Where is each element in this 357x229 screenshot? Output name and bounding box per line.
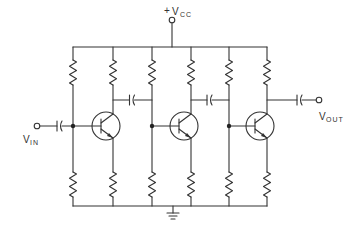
stage-3-collector-resistor bbox=[264, 60, 271, 85]
vcc-label: V bbox=[172, 6, 179, 17]
stage2-to-stage3-coupling-capacitor bbox=[207, 95, 212, 105]
stage-1-emitter-resistor bbox=[110, 172, 117, 197]
stage-2-bias-resistor-bottom bbox=[149, 172, 156, 197]
stage-1-bias-resistor-bottom bbox=[70, 172, 77, 197]
stage-3-base-junction-dot bbox=[227, 124, 231, 128]
input-coupling-capacitor bbox=[57, 121, 62, 131]
stage-1-base-junction-dot bbox=[71, 124, 75, 128]
stage1-to-stage2-coupling-capacitor bbox=[130, 95, 135, 105]
stage-2-emitter-resistor bbox=[188, 172, 195, 197]
vcc-label-subscript: CC bbox=[180, 11, 192, 18]
vin-label-subscript: IN bbox=[30, 139, 39, 146]
vin-label: V bbox=[23, 134, 30, 145]
output-coupling-capacitor bbox=[297, 95, 302, 105]
vout-label-subscript: OUT bbox=[326, 116, 344, 123]
wires bbox=[40, 47, 316, 206]
stage-2-collector-resistor bbox=[188, 60, 195, 85]
stage-3-emitter-resistor bbox=[264, 172, 271, 197]
stage-3-bias-resistor-bottom bbox=[226, 172, 233, 197]
stage-2-bias-resistor-top bbox=[149, 60, 156, 85]
circuit-diagram: + V CC V IN V OUT bbox=[0, 0, 357, 229]
vcc-terminal: + V CC bbox=[164, 5, 192, 47]
transistor-collector bbox=[255, 114, 267, 123]
input-terminal: V IN bbox=[23, 123, 40, 146]
vcc-plus-sign: + bbox=[164, 5, 170, 16]
output-terminal: V OUT bbox=[316, 97, 344, 123]
input-terminal-circle bbox=[34, 123, 40, 129]
output-terminal-circle bbox=[316, 97, 322, 103]
stage-2-base-junction-dot bbox=[150, 124, 154, 128]
transistor-collector bbox=[101, 114, 113, 123]
ground-symbol bbox=[167, 206, 179, 219]
vcc-terminal-circle bbox=[169, 17, 175, 23]
transistor-collector bbox=[179, 114, 191, 123]
stage-1-bias-resistor-top bbox=[70, 60, 77, 85]
stage-1-collector-resistor bbox=[110, 60, 117, 85]
stage-3-bias-resistor-top bbox=[226, 60, 233, 85]
vout-label: V bbox=[319, 111, 326, 122]
